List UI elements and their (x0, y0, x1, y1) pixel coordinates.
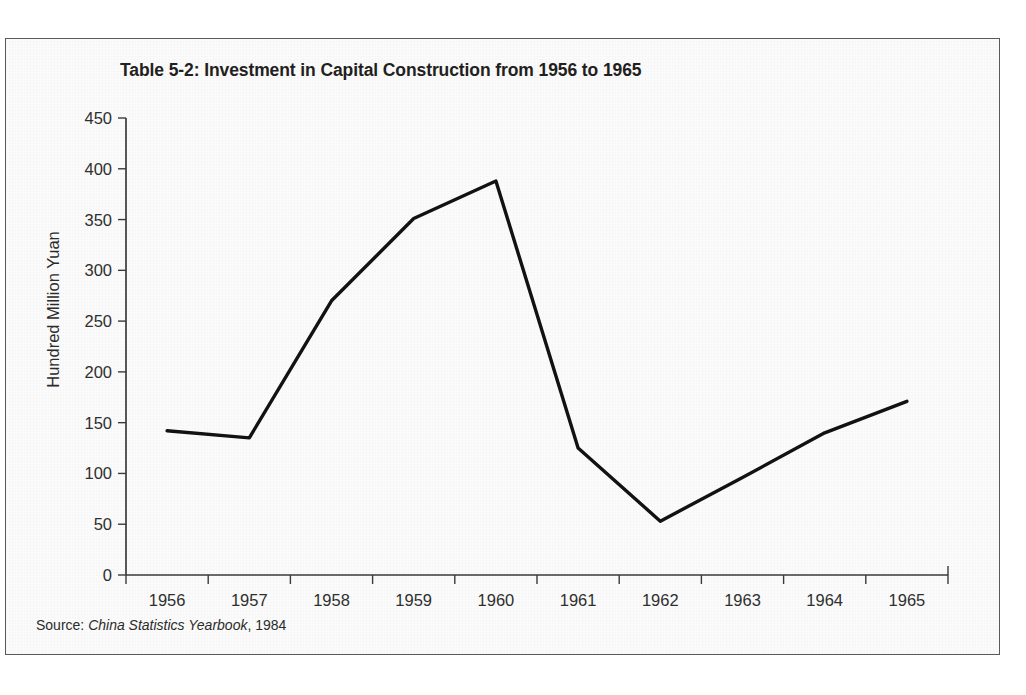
source-note: Source: China Statistics Yearbook, 1984 (36, 617, 286, 633)
source-publication: China Statistics Yearbook (88, 617, 247, 633)
figure-frame (5, 38, 1000, 655)
source-prefix: Source: (36, 617, 84, 633)
source-year: , 1984 (247, 617, 286, 633)
y-axis-title: Hundred Million Yuan (44, 195, 63, 425)
page-title: Table 5-2: Investment in Capital Constru… (120, 60, 641, 81)
scanned-page: Table 5-2: Investment in Capital Constru… (0, 0, 1026, 695)
